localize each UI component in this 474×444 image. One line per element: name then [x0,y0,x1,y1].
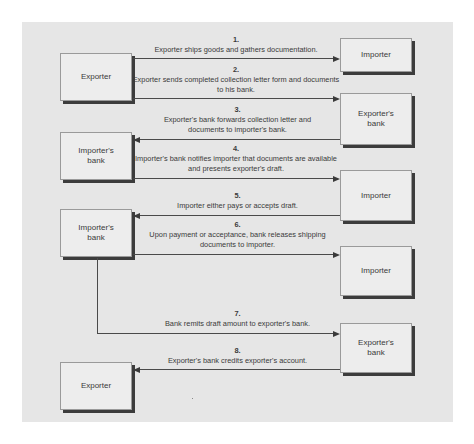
box-exporter-bottom: Exporter [60,362,132,410]
arrow-right-icon [333,176,340,182]
arrow-left-icon [133,137,140,143]
step-text: Exporter's bank credits exporter's accou… [168,356,307,365]
step-4-label: 4. Importer's bank notifies importer tha… [132,144,340,174]
box-label: Importer [361,50,391,60]
box-label: Importer's bank [75,146,117,166]
arrow-3-line [139,139,340,140]
step-number: 7. [140,309,335,319]
arrow-1-line [133,58,333,59]
arrow-right-icon [333,252,340,258]
box-label: Exporter [81,381,111,391]
arrow-4-line [133,178,333,179]
step-5-label: 5. Importer either pays or accepts draft… [145,191,330,211]
arrow-5-line [139,215,340,216]
step-number: 2. [132,65,340,75]
step-text: Importer either pays or accepts draft. [177,201,298,210]
box-importer-3: Importer [340,246,412,296]
arrow-6-line [133,254,333,255]
step-number: 6. [145,220,330,230]
box-label: Exporter [81,72,111,82]
step-number: 8. [140,346,335,356]
step-7-label: 7. Bank remits draft amount to exporter'… [140,309,335,329]
box-exporters-bank-1: Exporter's bank [340,93,412,145]
arrow-left-icon [133,367,140,373]
arrow-7-vertical-line [97,258,98,334]
step-number: 5. [145,191,330,201]
step-1-label: 1. Exporter ships goods and gathers docu… [132,35,340,55]
step-text: Upon payment or acceptance, bank release… [149,230,325,249]
box-label: Importer [361,266,391,276]
box-importers-bank-1: Importer's bank [60,132,132,180]
step-text: Exporter's bank forwards collection lett… [164,115,311,134]
step-number: 1. [132,35,340,45]
arrow-right-icon [333,56,340,62]
box-exporters-bank-2: Exporter's bank [340,323,412,373]
box-exporter-top: Exporter [60,53,132,101]
arrow-2-line [133,98,333,99]
box-label: Importer's bank [75,223,117,243]
step-text: Exporter ships goods and gathers documen… [154,45,317,54]
box-label: Importer [361,191,391,201]
arrow-8-line [139,369,340,370]
step-text: Bank remits draft amount to exporter's b… [165,319,310,328]
box-importer-2: Importer [340,170,412,221]
arrow-right-icon [333,96,340,102]
speck [192,398,193,399]
step-text: Exporter sends completed collection lett… [133,75,340,94]
box-importers-bank-2: Importer's bank [60,209,132,257]
step-8-label: 8. Exporter's bank credits exporter's ac… [140,346,335,366]
step-text: Importer's bank notifies importer that d… [135,154,337,173]
step-number: 3. [145,105,330,115]
arrow-left-icon [133,213,140,219]
box-label: Exporter's bank [355,338,397,358]
arrow-right-icon [333,331,340,337]
step-6-label: 6. Upon payment or acceptance, bank rele… [145,220,330,250]
box-importer-1: Importer [340,38,412,72]
box-label: Exporter's bank [355,109,397,129]
step-3-label: 3. Exporter's bank forwards collection l… [145,105,330,135]
step-number: 4. [132,144,340,154]
step-2-label: 2. Exporter sends completed collection l… [132,65,340,95]
arrow-7-line [97,333,333,334]
